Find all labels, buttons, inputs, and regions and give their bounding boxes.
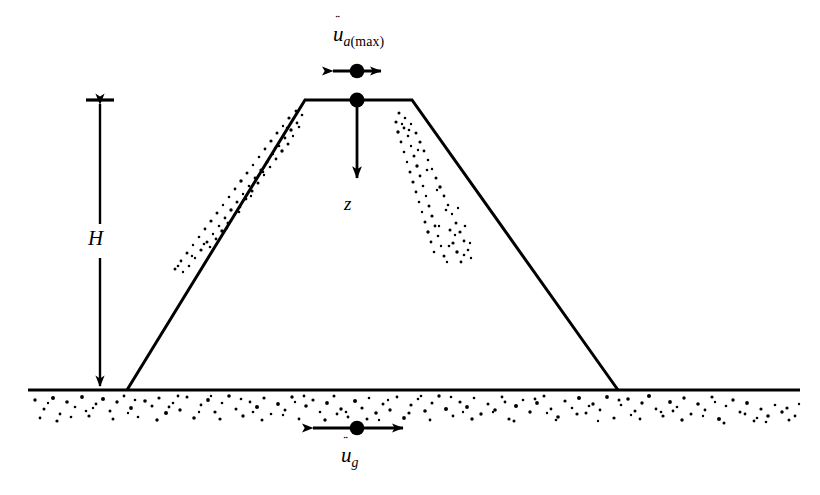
embankment-seismic-response-figure: ¨u a(max) ¨u g H z [0, 0, 820, 495]
ground-acceleration-subscript: g [352, 455, 359, 470]
ground-acceleration-symbol: ¨u [341, 443, 352, 468]
height-symbol: H [88, 226, 103, 251]
ground-acceleration-label: ¨u g [341, 443, 359, 471]
ground-arrow-node [350, 421, 365, 436]
foundation-stipple [33, 394, 800, 425]
ground-acceleration-ddot-accent: ¨ [344, 434, 349, 447]
ground-acceleration-arrow [313, 421, 403, 436]
right-slope-stipple [394, 112, 472, 264]
crest-acceleration-ddot-accent: ¨ [336, 13, 341, 26]
crest-acceleration-arrow [333, 64, 381, 79]
crest-acceleration-label: ¨u a(max) [333, 22, 384, 50]
depth-symbol: z [344, 193, 351, 215]
crest-acceleration-symbol: ¨u [333, 22, 344, 47]
depth-label: z [344, 193, 351, 215]
crest-arrow-node [350, 64, 365, 79]
figure-canvas [0, 0, 820, 495]
crest-acceleration-subscript-upright: (max) [351, 34, 385, 49]
crest-acceleration-subscript: a(max) [344, 34, 385, 49]
crest-acceleration-subscript-italic: a [344, 34, 351, 49]
embankment-outline [127, 100, 618, 390]
height-label: H [88, 226, 103, 251]
